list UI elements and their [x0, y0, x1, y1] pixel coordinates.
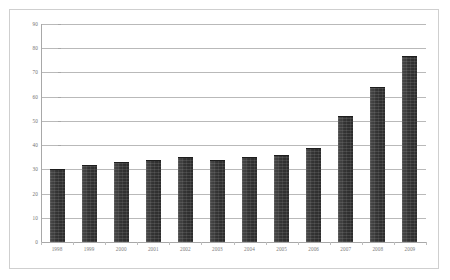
x-tick-mark [362, 242, 363, 245]
bar-slot [73, 24, 105, 242]
x-tick-mark [169, 242, 170, 245]
y-tick-label-70: 70 [33, 69, 38, 75]
x-tick-label-2002: 2002 [169, 246, 201, 260]
bar-2006 [306, 148, 321, 242]
bar-2008 [370, 87, 385, 242]
y-tick-label-10: 10 [33, 215, 38, 221]
x-tick-label-2005: 2005 [266, 246, 298, 260]
bar-slot [233, 24, 265, 242]
x-tick-label-1999: 1999 [73, 246, 105, 260]
bar-slot [41, 24, 73, 242]
x-tick-mark [137, 242, 138, 245]
chart-screenshot: 0102030405060708090 19981999200020012002… [0, 0, 450, 280]
bar-2007 [338, 116, 353, 242]
y-tick-label-20: 20 [33, 191, 38, 197]
bar-1998 [50, 169, 65, 242]
x-tick-mark [105, 242, 106, 245]
bar-slot [298, 24, 330, 242]
bar-2000 [114, 162, 129, 242]
bar-slot [330, 24, 362, 242]
bar-slot [105, 24, 137, 242]
x-tick-mark [201, 242, 202, 245]
x-tick-mark [41, 242, 42, 245]
bar-2004 [242, 157, 257, 242]
x-tick-mark [426, 242, 427, 245]
bar-2003 [210, 160, 225, 242]
y-axis-tick-labels: 0102030405060708090 [20, 24, 38, 242]
x-tick-label-2008: 2008 [362, 246, 394, 260]
y-tick-mark-0 [58, 242, 61, 243]
bar-slot [169, 24, 201, 242]
bar-series [41, 24, 426, 242]
x-tick-mark [266, 242, 267, 245]
y-tick-label-30: 30 [33, 166, 38, 172]
x-tick-mark [330, 242, 331, 245]
x-tick-label-2003: 2003 [201, 246, 233, 260]
y-tick-label-40: 40 [33, 142, 38, 148]
x-axis-tick-labels: 1998199920002001200220032004200520062007… [41, 246, 426, 260]
bar-slot [362, 24, 394, 242]
x-tick-label-2004: 2004 [233, 246, 265, 260]
x-tick-label-2007: 2007 [330, 246, 362, 260]
y-tick-label-50: 50 [33, 118, 38, 124]
x-tick-mark [298, 242, 299, 245]
bar-2001 [146, 160, 161, 242]
bar-2002 [178, 157, 193, 242]
y-tick-label-90: 90 [33, 21, 38, 27]
bar-1999 [82, 165, 97, 243]
x-tick-label-2006: 2006 [298, 246, 330, 260]
bar-slot [137, 24, 169, 242]
x-tick-label-2009: 2009 [394, 246, 426, 260]
y-tick-label-60: 60 [33, 94, 38, 100]
x-tick-label-2000: 2000 [105, 246, 137, 260]
x-tick-mark [394, 242, 395, 245]
x-tick-label-1998: 1998 [41, 246, 73, 260]
x-tick-mark [234, 242, 235, 245]
x-tick-mark [73, 242, 74, 245]
y-tick-label-0: 0 [35, 239, 38, 245]
bar-slot [266, 24, 298, 242]
y-tick-label-80: 80 [33, 45, 38, 51]
bar-2009 [402, 56, 417, 243]
bar-2005 [274, 155, 289, 242]
bar-slot [201, 24, 233, 242]
bar-slot [394, 24, 426, 242]
x-tick-label-2001: 2001 [137, 246, 169, 260]
